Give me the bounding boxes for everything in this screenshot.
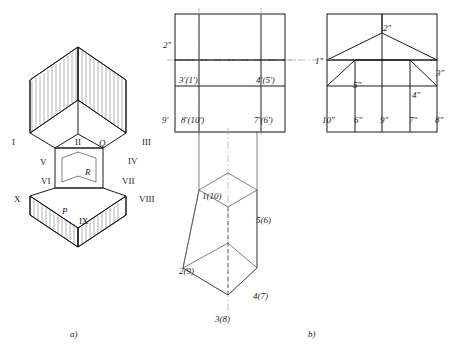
- ortho-label-3dd: 3": [436, 69, 444, 78]
- figure-drawing: .solid { stroke:#1a1a1a; stroke-width:1;…: [0, 0, 461, 352]
- ortho-label-2dd-side: 2": [383, 24, 391, 33]
- pictorial-lower-body: [30, 188, 126, 247]
- ortho-label-2-9: 2(9): [179, 267, 194, 276]
- ortho-label-8p10p: 8'(10'): [181, 116, 204, 125]
- ortho-label-3-8: 3(8): [215, 315, 230, 324]
- ortho-label-7dd: 7": [409, 116, 417, 125]
- caption-a: a): [70, 329, 78, 339]
- pictorial-label-9: IX: [79, 217, 89, 226]
- ortho-label-5dd: 5": [353, 81, 361, 90]
- caption-b: b): [308, 329, 316, 339]
- ortho-label-9dd: 9": [380, 116, 388, 125]
- ortho-label-1dd: 1": [315, 57, 323, 66]
- ortho-group: [167, 8, 437, 312]
- pictorial-label-3: III: [142, 138, 151, 147]
- pictorial-middle-block: [55, 148, 103, 188]
- ortho-label-4p5p: 4'(5'): [256, 76, 275, 85]
- ortho-label-3p1p: 3'(1'): [179, 76, 198, 85]
- ortho-label-4dd: 4": [412, 91, 420, 100]
- pictorial-label-7: VII: [122, 177, 135, 186]
- ortho-label-9p: 9': [162, 116, 168, 125]
- pictorial-label-r: R: [85, 168, 91, 177]
- ortho-label-2dd-front: 2": [163, 41, 171, 50]
- ortho-label-5-6: 5(6): [256, 216, 271, 225]
- pictorial-group: [30, 47, 126, 247]
- pictorial-label-6: VI: [41, 177, 51, 186]
- pictorial-label-p: P: [62, 207, 68, 216]
- ortho-label-4-7: 4(7): [253, 292, 268, 301]
- pictorial-label-1: I: [12, 138, 15, 147]
- ortho-label-7p6p: 7'(6'): [254, 116, 273, 125]
- pictorial-label-q: Q: [99, 139, 106, 148]
- pictorial-label-2: II: [75, 138, 81, 147]
- top-view: [183, 128, 257, 312]
- pictorial-label-10: X: [14, 195, 21, 204]
- ortho-label-8dd: 8": [435, 116, 443, 125]
- ortho-label-10dd: 10": [322, 116, 335, 125]
- ortho-label-1-10: 1(10): [202, 192, 222, 201]
- pictorial-label-4: IV: [128, 157, 138, 166]
- pictorial-label-8: VIII: [139, 195, 155, 204]
- figure-root: .solid { stroke:#1a1a1a; stroke-width:1;…: [0, 0, 461, 352]
- pictorial-upper-body: [30, 47, 126, 148]
- ortho-label-6dd: 6": [354, 116, 362, 125]
- pictorial-label-5: V: [40, 158, 47, 167]
